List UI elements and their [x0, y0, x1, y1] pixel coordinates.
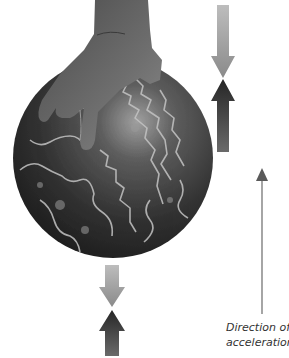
acceleration-caption: Direction of acceleration [226, 320, 289, 350]
arrow-down-gray-icon [211, 5, 235, 78]
caption-line-1: Direction of [226, 320, 289, 335]
caption-line-2: acceleration [226, 335, 289, 350]
arrow-down-gray-icon [99, 265, 125, 307]
arrowhead-up-icon [256, 168, 268, 181]
top-force-arrows [211, 5, 235, 152]
acceleration-arrow [256, 168, 268, 314]
arrow-up-dark-icon [211, 79, 235, 152]
figure-canvas [0, 0, 289, 358]
bottom-force-arrows [99, 265, 125, 356]
arrow-up-dark-icon [99, 310, 125, 356]
